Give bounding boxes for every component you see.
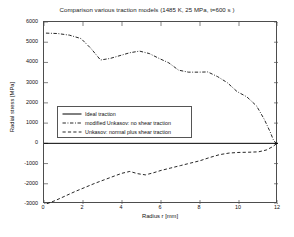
chart-title: Comparison various traction models (1485… [0,6,294,13]
y-tick-label: 2000 [26,99,38,105]
x-tick-label: 4 [120,204,123,210]
y-tick-label: 6000 [26,18,38,24]
chart-legend: Ideal tractionmodified Unkasov: no shear… [57,106,192,138]
legend-line-swatch [62,119,82,127]
y-tick-label: -1000 [24,160,38,166]
y-tick-label: -2000 [24,180,38,186]
y-tick-label: 1000 [26,119,38,125]
x-tick-label: 12 [274,204,280,210]
y-tick-label: 4000 [26,58,38,64]
legend-item-label: modified Unkasov: no shear traction [85,119,171,127]
x-tick-label: 10 [235,204,241,210]
legend-item-label: Ideal traction [85,110,116,118]
legend-line-swatch [62,110,82,118]
legend-line-swatch [62,128,82,136]
y-tick-label: 3000 [26,79,38,85]
y-tick-label: 5000 [26,38,38,44]
x-axis-title: Radius r [mm] [43,213,277,219]
y-axis-title: Radial stress [MPa] [9,47,15,167]
chart-figure: Comparison various traction models (1485… [0,0,294,237]
x-tick-label: 6 [159,204,162,210]
x-tick-label: 0 [42,204,45,210]
x-tick-label: 8 [198,204,201,210]
legend-item[interactable]: Ideal traction [58,109,191,118]
legend-item[interactable]: Unkasov: normal plus shear traction [58,127,191,136]
legend-item[interactable]: modified Unkasov: no shear traction [58,118,191,127]
legend-item-label: Unkasov: normal plus shear traction [85,128,171,136]
x-tick-label: 2 [81,204,84,210]
y-axis-tick-labels: -3000-2000-10000100020003000400050006000 [0,21,41,203]
series-line-2 [47,144,276,204]
y-tick-label: 0 [35,139,38,145]
y-tick-label: -3000 [24,200,38,206]
